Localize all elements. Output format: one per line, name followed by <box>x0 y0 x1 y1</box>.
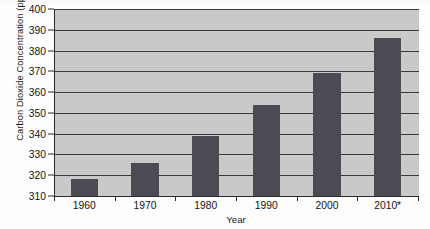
bar <box>71 179 98 196</box>
y-axis-tick-label: 400 <box>16 4 46 15</box>
y-axis-tick-label: 320 <box>16 170 46 181</box>
co2-bar-chart: Carbon Dioxide Concentration (ppmv) 3103… <box>0 0 430 229</box>
bar <box>374 38 401 196</box>
y-axis-tick-label: 390 <box>16 24 46 35</box>
x-axis-tick-label: 1990 <box>255 200 278 211</box>
x-axis-tick-label: 2010* <box>374 200 401 211</box>
x-axis-tick-label: 1980 <box>194 200 217 211</box>
x-axis-title: Year <box>54 214 418 225</box>
y-axis-tick-label: 330 <box>16 149 46 160</box>
bar <box>313 73 340 196</box>
bar <box>192 136 219 196</box>
x-axis-tick-label: 1970 <box>134 200 157 211</box>
y-axis-tick-label: 370 <box>16 66 46 77</box>
x-axis-tick-label: 1960 <box>73 200 96 211</box>
y-axis-tick-label: 340 <box>16 128 46 139</box>
y-axis-tick-label: 360 <box>16 87 46 98</box>
x-axis-tick-mark <box>418 196 419 201</box>
x-axis-tick-label: 2000 <box>316 200 339 211</box>
y-axis-tick-label: 380 <box>16 45 46 56</box>
scan-artifact <box>0 0 430 5</box>
y-axis-tick-label: 310 <box>16 191 46 202</box>
bar <box>131 163 158 196</box>
bar <box>253 105 280 196</box>
y-axis-tick-labels: 310320330340350360370380390400 <box>16 6 46 198</box>
bars-layer <box>54 9 418 196</box>
y-axis-tick-label: 350 <box>16 107 46 118</box>
